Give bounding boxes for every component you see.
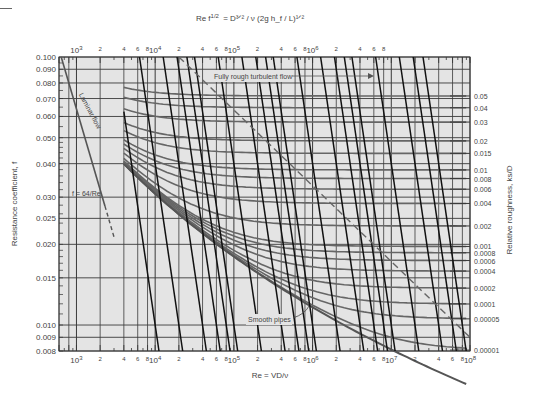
- roughness-tick-label: 0.004: [474, 200, 492, 207]
- roughness-tick-label: 0.0008: [474, 250, 496, 257]
- roughness-tick-label: 0.0002: [474, 285, 496, 292]
- y-tick-label: 0.008: [36, 347, 57, 356]
- svg-text:Fully rough turbulent flow: Fully rough turbulent flow: [214, 73, 293, 81]
- y-tick-label: 0.015: [36, 274, 57, 283]
- y-tick-label: 0.040: [36, 160, 57, 169]
- roughness-tick-label: 0.008: [474, 176, 492, 183]
- top-major-label: 106: [306, 45, 319, 55]
- roughness-tick-label: 0.015: [474, 150, 492, 157]
- x-major-label: 103: [70, 355, 83, 365]
- roughness-tick-label: 0.01: [474, 167, 488, 174]
- x-major-label: 104: [149, 355, 162, 365]
- y-tick-label: 0.100: [36, 53, 57, 62]
- roughness-tick-label: 0.03: [474, 119, 488, 126]
- x-major-label: 107: [385, 355, 398, 365]
- x-minor-label: 4: [358, 356, 362, 362]
- top-minor-label: 8: [382, 46, 386, 52]
- y-tick-label: 0.080: [36, 79, 57, 88]
- x-major-label: 106: [306, 355, 319, 365]
- x-minor-label: 4: [201, 356, 205, 362]
- y-tick-label: 0.030: [36, 193, 57, 202]
- y-tick-label: 0.060: [36, 112, 57, 121]
- top-minor-label: 6: [372, 46, 376, 52]
- top-minor-label: 6: [293, 46, 297, 52]
- roughness-tick-label: 0.04: [474, 105, 488, 112]
- y-tick-label: 0.090: [36, 65, 57, 74]
- x-minor-label: 2: [98, 356, 102, 362]
- x-major-label: 108: [464, 355, 477, 365]
- top-minor-label: 2: [256, 46, 260, 52]
- roughness-tick-label: 0.00001: [474, 347, 499, 354]
- x-minor-label: 4: [122, 356, 126, 362]
- roughness-tick-label: 0.05: [474, 93, 488, 100]
- y-tick-label: 0.050: [36, 134, 57, 143]
- roughness-tick-label: 0.0006: [474, 258, 496, 265]
- x-minor-label: 2: [177, 356, 181, 362]
- moody-diagram: 0.050.040.030.020.0150.010.0080.0060.004…: [0, 0, 539, 402]
- top-minor-label: 4: [280, 46, 284, 52]
- right-axis-label: Relative roughness, ks/D: [505, 165, 514, 254]
- top-minor-label: 6: [215, 46, 219, 52]
- top-minor-label: 6: [136, 46, 140, 52]
- x-axis-label: Re = VD/ν: [252, 371, 289, 380]
- roughness-tick-label: 0.00005: [474, 316, 499, 323]
- roughness-tick-label: 0.0001: [474, 301, 496, 308]
- top-minor-label: 4: [358, 46, 362, 52]
- x-major-label: 105: [228, 355, 241, 365]
- top-minor-label: 2: [177, 46, 181, 52]
- x-minor-label: 6: [293, 356, 297, 362]
- x-minor-label: 6: [215, 356, 219, 362]
- top-formula: Re f1/2 = D³ᐟ² / ν (2g h_f / L)¹ᐟ²: [196, 13, 304, 23]
- y-tick-label: 0.070: [36, 95, 57, 104]
- laminar-formula: f = 64/Re: [72, 190, 101, 197]
- x-minor-label: 2: [335, 356, 339, 362]
- x-minor-label: 6: [451, 356, 455, 362]
- y-tick-label: 0.009: [36, 333, 57, 342]
- y-tick-label: 0.025: [36, 214, 57, 223]
- x-minor-label: 4: [437, 356, 441, 362]
- y-tick-label: 0.010: [36, 321, 57, 330]
- roughness-tick-label: 0.02: [474, 138, 488, 145]
- roughness-tick-label: 0.006: [474, 186, 492, 193]
- top-minor-label: 4: [122, 46, 126, 52]
- top-minor-label: 2: [98, 46, 102, 52]
- top-major-label: 104: [149, 45, 162, 55]
- svg-text:Smooth pipes: Smooth pipes: [248, 316, 291, 324]
- y-tick-label: 0.020: [36, 240, 57, 249]
- top-major-label: 105: [228, 45, 241, 55]
- x-minor-label: 2: [256, 356, 260, 362]
- y-axis-label: Resistance coefficient, f: [10, 161, 19, 246]
- top-minor-label: 2: [335, 46, 339, 52]
- top-minor-label: 4: [201, 46, 205, 52]
- x-minor-label: 6: [372, 356, 376, 362]
- x-minor-label: 6: [136, 356, 140, 362]
- top-major-label: 103: [70, 45, 83, 55]
- x-minor-label: 4: [280, 356, 284, 362]
- roughness-tick-label: 0.002: [474, 223, 492, 230]
- roughness-tick-label: 0.0004: [474, 268, 496, 275]
